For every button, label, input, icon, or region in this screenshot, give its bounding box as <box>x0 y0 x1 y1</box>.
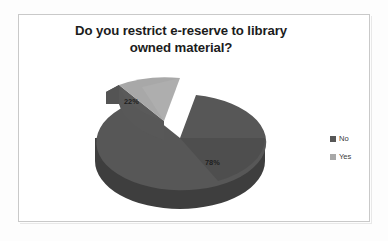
chart-legend: No Yes <box>330 131 370 167</box>
chart-canvas: Do you restrict e-reserve to library own… <box>0 0 388 241</box>
legend-swatch-yes-icon <box>330 154 336 160</box>
legend-label-no: No <box>339 134 349 143</box>
pie-data-label-yes: 22% <box>124 97 139 106</box>
legend-swatch-no-icon <box>330 136 336 142</box>
pie-data-label-no: 78% <box>205 158 220 167</box>
pie-chart-graphic <box>18 14 370 222</box>
pie-plot-area <box>18 14 370 222</box>
legend-label-yes: Yes <box>339 152 351 161</box>
legend-item-no[interactable]: No <box>330 131 370 146</box>
legend-item-yes[interactable]: Yes <box>330 149 370 164</box>
